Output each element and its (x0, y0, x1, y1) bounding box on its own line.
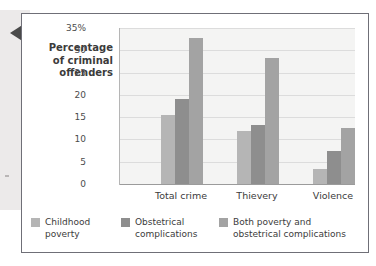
y-axis-tick-label: 0 (46, 179, 86, 189)
legend-item-childhood-poverty: Childhood poverty (31, 217, 123, 240)
legend-label-line-2: complications (135, 229, 197, 241)
bar (327, 151, 341, 184)
legend-swatch-icon (219, 218, 228, 227)
plot-area (119, 28, 355, 185)
legend-label-line-1: Obstetrical (135, 217, 197, 229)
bar (251, 125, 265, 184)
bar (265, 58, 279, 184)
plot-inner (120, 28, 355, 185)
legend-swatch-icon (121, 218, 130, 227)
x-axis-category-label: Violence (313, 190, 353, 201)
y-axis-tick-label: 5 (46, 157, 86, 167)
chart-screenshot: Percentage of criminal offenders 0510152… (0, 0, 376, 266)
bar (341, 128, 355, 184)
legend-item-obstetrical-complications: Obstetrical complications (121, 217, 217, 240)
page-strip-tick (5, 175, 9, 177)
legend-swatch-icon (31, 218, 40, 227)
y-axis-tick-label: 10 (46, 134, 86, 144)
legend-label-line-1: Childhood (45, 217, 90, 229)
bar-group (161, 27, 203, 184)
bar-group (313, 27, 355, 184)
legend-label-line-2: poverty (45, 229, 90, 241)
y-axis-tick-label: 20 (46, 90, 86, 100)
y-axis-title-line-2: of criminal (31, 55, 113, 68)
legend-label-line-1: Both poverty and (233, 217, 346, 229)
y-axis-tick-label: 30 (46, 45, 86, 55)
bar (175, 99, 189, 184)
chart-legend: Childhood poverty Obstetrical complicati… (31, 217, 361, 247)
x-axis-baseline (120, 184, 355, 185)
bar (189, 38, 203, 184)
legend-label: Childhood poverty (45, 217, 90, 240)
bar (161, 115, 175, 184)
y-axis-tick-label: 25 (46, 68, 86, 78)
legend-label: Obstetrical complications (135, 217, 197, 240)
legend-label: Both poverty and obstetrical complicatio… (233, 217, 346, 240)
bar-group (237, 27, 279, 184)
legend-item-both-poverty-and-obstetrical-complications: Both poverty and obstetrical complicatio… (219, 217, 369, 240)
x-axis-category-label: Thievery (236, 190, 277, 201)
y-axis-tick-label: 15 (46, 112, 86, 122)
legend-label-line-2: obstetrical complications (233, 229, 346, 241)
y-axis-tick-label: 35% (46, 23, 86, 33)
x-axis-category-label: Total crime (155, 190, 207, 201)
bar (313, 169, 327, 184)
bar (237, 131, 251, 184)
figure-frame: Percentage of criminal offenders 0510152… (21, 13, 369, 253)
